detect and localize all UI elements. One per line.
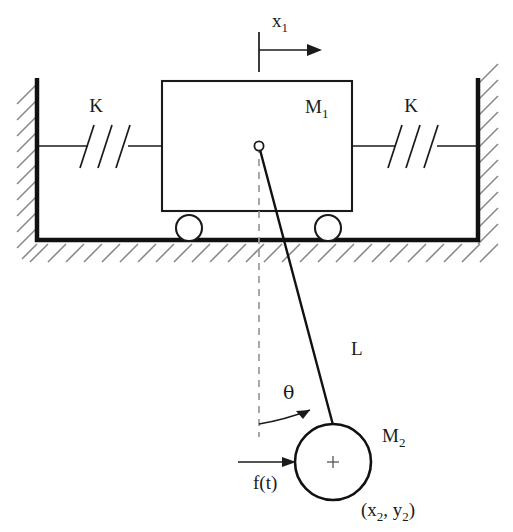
applied-force-arrow bbox=[238, 457, 296, 467]
angle-arc-theta bbox=[259, 410, 310, 424]
label-cart-mass-M1: M1 bbox=[305, 96, 328, 121]
label-rod-length-L: L bbox=[351, 338, 363, 359]
label-spring-left-K: K bbox=[89, 95, 103, 116]
label-ball-mass-M2: M2 bbox=[382, 425, 405, 450]
label-coordinates-x2y2: (x2, y2) bbox=[361, 499, 415, 524]
cart-wheel-right bbox=[315, 215, 341, 241]
mechanical-diagram-root: x1 K K M1 L θ M2 f(t) (x2, y2) bbox=[0, 0, 513, 532]
floor-hatching bbox=[30, 244, 498, 262]
label-spring-right-K: K bbox=[404, 95, 418, 116]
label-force-ft: f(t) bbox=[253, 472, 277, 494]
left-wall-hatching bbox=[17, 84, 37, 259]
pendulum-pivot bbox=[254, 141, 263, 150]
diagram-canvas: x1 K K M1 L θ M2 f(t) (x2, y2) bbox=[0, 0, 513, 532]
spring-left-K bbox=[39, 125, 162, 168]
label-x1: x1 bbox=[272, 10, 288, 35]
displacement-arrow-x1 bbox=[259, 32, 322, 72]
spring-right-K bbox=[352, 125, 478, 168]
cart-wheel-left bbox=[176, 215, 202, 241]
pendulum-rod-L bbox=[259, 146, 333, 425]
right-wall-hatching bbox=[478, 64, 498, 244]
label-angle-theta: θ bbox=[283, 381, 294, 403]
